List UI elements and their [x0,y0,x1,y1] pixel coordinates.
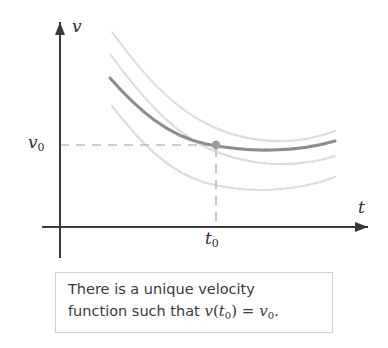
caption-period: . [274,302,279,320]
y-tick-label-subscript: 0 [38,141,45,154]
x-tick-label-t0: t0 [205,230,219,249]
y-tick-label-v0: v0 [28,134,45,153]
y-axis-arrowhead [55,22,65,35]
caption-math-v2: v [259,302,267,320]
y-axis-label: v [72,18,82,35]
x-axis-label: t [358,199,365,216]
caption-line-1: There is a unique velocity [68,278,326,300]
caption-box: There is a unique velocity function such… [55,272,333,333]
x-tick-label-subscript: 0 [212,237,219,250]
x-tick-label-base: t [205,228,212,248]
velocity-figure: v t v0 t0 There is a unique velocity fun… [0,0,388,348]
caption-math-v: v [204,302,212,320]
point-marker [212,141,221,150]
y-tick-label-base: v [28,132,38,152]
caption-math-equals: = [237,302,259,320]
caption-line-2-prefix: function such that [68,303,204,319]
x-axis-arrowhead [355,222,368,232]
caption-line-2: function such that v(t0) = v0. [68,300,326,327]
velocity-curve-faint-top [112,32,335,141]
caption-text: There is a unique velocity function such… [68,278,326,327]
